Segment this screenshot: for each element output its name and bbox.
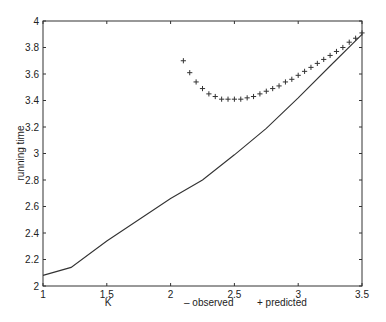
predicted-plus-marker	[296, 73, 301, 78]
predicted-plus-marker	[353, 36, 358, 41]
observed-line	[43, 34, 362, 275]
y-tick-label: 3.8	[25, 42, 39, 53]
predicted-plus-marker	[238, 97, 243, 102]
y-tick-label: 2.8	[25, 175, 39, 186]
predicted-plus-marker	[359, 30, 364, 35]
predicted-plus-marker	[187, 70, 192, 75]
y-tick-label: 2	[33, 281, 39, 292]
predicted-plus-marker	[315, 61, 320, 66]
x-tick-label: 1	[40, 289, 46, 300]
predicted-plus-marker	[251, 94, 256, 99]
predicted-plus-marker	[321, 57, 326, 62]
y-tick-label: 2.4	[25, 228, 39, 239]
predicted-plus-marker	[302, 69, 307, 74]
series-predicted-markers	[181, 30, 365, 101]
x-axis-label: K	[105, 297, 112, 308]
predicted-plus-marker	[340, 45, 345, 50]
predicted-plus-marker	[245, 95, 250, 100]
y-tick-label: 2.6	[25, 201, 39, 212]
predicted-plus-marker	[328, 53, 333, 58]
predicted-plus-marker	[181, 58, 186, 63]
predicted-plus-marker	[347, 40, 352, 45]
y-tick-label: 3.4	[25, 95, 39, 106]
predicted-plus-marker	[200, 86, 205, 91]
predicted-plus-marker	[232, 97, 237, 102]
predicted-plus-marker	[308, 65, 313, 70]
plot-area-border	[43, 21, 362, 286]
x-axis-ticks: 11.522.533.5	[40, 21, 369, 300]
predicted-plus-marker	[225, 97, 230, 102]
predicted-plus-marker	[213, 94, 218, 99]
legend-predicted: + predicted	[257, 297, 307, 308]
predicted-plus-marker	[283, 79, 288, 84]
predicted-plus-marker	[334, 49, 339, 54]
legend-observed: – observed	[184, 297, 233, 308]
y-tick-label: 2.2	[25, 254, 39, 265]
predicted-plus-marker	[270, 86, 275, 91]
y-axis-ticks: 22.22.42.62.833.23.43.63.84	[25, 16, 362, 292]
x-tick-label: 3.5	[355, 289, 369, 300]
y-tick-label: 3.6	[25, 69, 39, 80]
y-tick-label: 3.2	[25, 122, 39, 133]
plot-frame	[43, 21, 362, 286]
predicted-plus-marker	[206, 91, 211, 96]
y-axis-label: running time	[15, 125, 26, 180]
x-tick-label: 2	[168, 289, 174, 300]
y-tick-label: 4	[33, 16, 39, 27]
predicted-plus-marker	[194, 79, 199, 84]
predicted-plus-marker	[289, 77, 294, 82]
y-tick-label: 3	[33, 148, 39, 159]
chart: 11.522.533.5 22.22.42.62.833.23.43.63.84…	[0, 0, 386, 322]
predicted-plus-marker	[219, 97, 224, 102]
predicted-plus-marker	[257, 91, 262, 96]
predicted-plus-marker	[276, 83, 281, 88]
predicted-plus-marker	[264, 89, 269, 94]
series-observed-line	[43, 34, 362, 275]
